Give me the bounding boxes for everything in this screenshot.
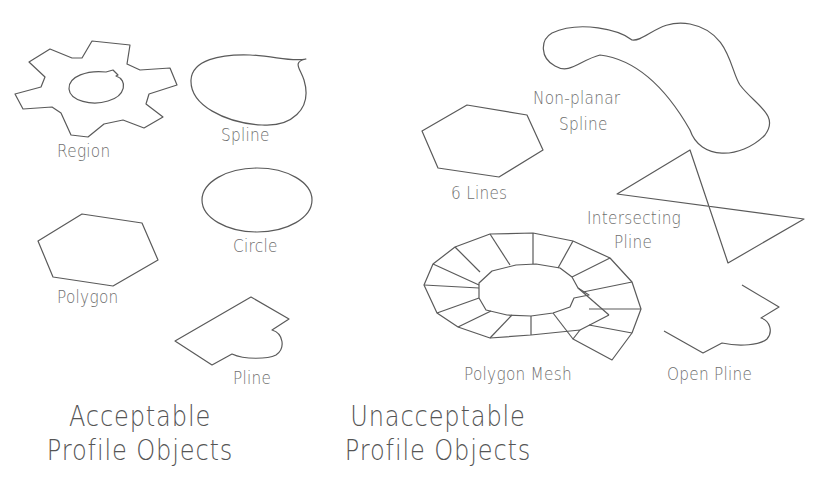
unacceptable-heading-line1: Unacceptable [318, 400, 559, 434]
polygon-mesh-label: Polygon Mesh [464, 364, 572, 384]
spline-shape [191, 55, 306, 125]
unacceptable-heading: Unacceptable Profile Objects [318, 400, 559, 468]
non-planar-label-line2: Spline [559, 114, 608, 134]
region-label: Region [57, 141, 110, 161]
unacceptable-heading-line2: Profile Objects [318, 434, 559, 468]
acceptable-heading-line1: Acceptable [45, 400, 234, 434]
non-planar-label-line1: Non-planar [533, 88, 620, 108]
six-lines-shape [422, 105, 543, 177]
six-lines-label: 6 Lines [451, 183, 507, 203]
intersecting-label-line1: Intersecting [587, 208, 681, 228]
acceptable-heading: Acceptable Profile Objects [45, 400, 234, 468]
polygon-shape [38, 214, 158, 286]
acceptable-heading-line2: Profile Objects [45, 434, 234, 468]
polygon-label: Polygon [57, 287, 118, 307]
intersecting-label-line2: Pline [614, 232, 652, 252]
spline-label: Spline [221, 125, 270, 145]
circle-label: Circle [233, 236, 278, 256]
pline-shape [175, 297, 289, 365]
open-pline-label: Open Pline [667, 364, 752, 384]
region-gear-shape [15, 41, 177, 137]
open-pline-shape [664, 285, 779, 353]
circle-shape [202, 168, 312, 232]
pline-label: Pline [233, 368, 271, 388]
polygon-mesh-shape [424, 233, 641, 360]
